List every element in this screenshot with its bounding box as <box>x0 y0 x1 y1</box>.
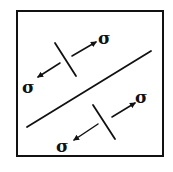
lower-arrow-right-icon <box>112 103 135 117</box>
upper-sigma-left-label: σ <box>22 77 35 97</box>
main-diagonal-line <box>27 51 151 127</box>
upper-stress-element: σ σ <box>22 28 111 97</box>
lower-plane-tick <box>93 105 115 139</box>
upper-plane-tick <box>55 43 76 76</box>
upper-sigma-right-label: σ <box>98 28 111 48</box>
lower-arrow-left-icon <box>74 124 98 140</box>
frame-border <box>17 11 163 156</box>
upper-arrow-right-icon <box>72 42 96 56</box>
lower-sigma-right-label: σ <box>135 87 148 107</box>
stress-diagram: σ σ σ σ <box>0 0 173 172</box>
lower-stress-element: σ σ <box>56 87 148 156</box>
upper-arrow-left-icon <box>38 63 60 77</box>
lower-sigma-left-label: σ <box>56 136 69 156</box>
